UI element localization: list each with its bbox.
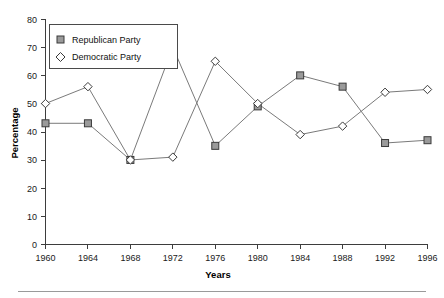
x-tick-label-1992: 1992 [375,253,395,263]
y-tick-label-80: 80 [27,15,37,25]
y-tick-label-50: 50 [27,99,37,109]
x-tick-label-1972: 1972 [163,253,183,263]
x-tick-label-1976: 1976 [205,253,225,263]
series-markers-democratic [41,57,431,164]
square-marker-icon [57,36,64,43]
data-point-marker-square [382,140,389,147]
x-tick-label-1968: 1968 [120,253,140,263]
data-point-marker-square [212,142,219,149]
data-point-marker-square [424,137,431,144]
data-point-marker-square [297,72,304,79]
y-axis-ticks [41,20,46,245]
data-point-marker-diamond [296,130,304,138]
x-axis-title: Years [205,269,230,280]
x-tick-label-1960: 1960 [35,253,55,263]
x-axis-ticks [46,245,428,250]
y-tick-label-70: 70 [27,43,37,53]
y-tick-label-30: 30 [27,155,37,165]
chart-figure: 80 70 60 50 40 30 20 10 0 1960 1964 1968… [0,0,444,298]
legend-label-democratic: Democratic Party [72,52,142,62]
x-tick-label-1984: 1984 [290,253,310,263]
data-point-marker-square [42,120,49,127]
x-tick-label-1988: 1988 [333,253,353,263]
x-tick-label-1980: 1980 [248,253,268,263]
y-tick-label-10: 10 [27,212,37,222]
data-point-marker-diamond [423,85,431,93]
data-point-marker-diamond [169,153,177,161]
y-tick-label-20: 20 [27,184,37,194]
chart-legend: Republican Party Democratic Party [50,25,178,69]
data-point-marker-diamond [41,99,49,107]
line-chart-canvas: 80 70 60 50 40 30 20 10 0 1960 1964 1968… [0,0,444,298]
y-tick-label-60: 60 [27,71,37,81]
y-tick-label-0: 0 [32,240,37,250]
y-tick-label-40: 40 [27,127,37,137]
data-point-marker-diamond [84,82,92,90]
series-line-democratic [46,61,428,160]
x-tick-label-1964: 1964 [78,253,98,263]
y-axis-title: Percentage [9,107,20,158]
legend-label-republican: Republican Party [72,35,141,45]
x-tick-label-1996: 1996 [417,253,437,263]
data-point-marker-square [84,120,91,127]
data-point-marker-square [339,83,346,90]
